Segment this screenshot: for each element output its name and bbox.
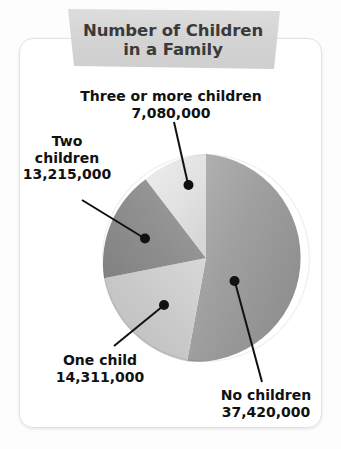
label-three-or-more-children-value: 7,080,000 xyxy=(57,105,285,122)
label-one-child: One child 14,311,000 xyxy=(30,352,170,385)
label-no-children: No children 37,420,000 xyxy=(196,387,336,420)
chart-page: Number of Children in a Family xyxy=(0,0,341,449)
label-two-children-text-line-2: children xyxy=(8,150,126,167)
label-one-child-text: One child xyxy=(30,352,170,369)
label-no-children-text: No children xyxy=(196,387,336,404)
label-two-children-text-line-1: Two xyxy=(8,133,126,150)
label-three-or-more-children: Three or more children 7,080,000 xyxy=(57,88,285,121)
label-three-or-more-children-text: Three or more children xyxy=(57,88,285,105)
label-one-child-value: 14,311,000 xyxy=(30,369,170,386)
label-two-children: Two children 13,215,000 xyxy=(8,133,126,183)
label-no-children-value: 37,420,000 xyxy=(196,404,336,421)
label-two-children-value: 13,215,000 xyxy=(8,166,126,183)
